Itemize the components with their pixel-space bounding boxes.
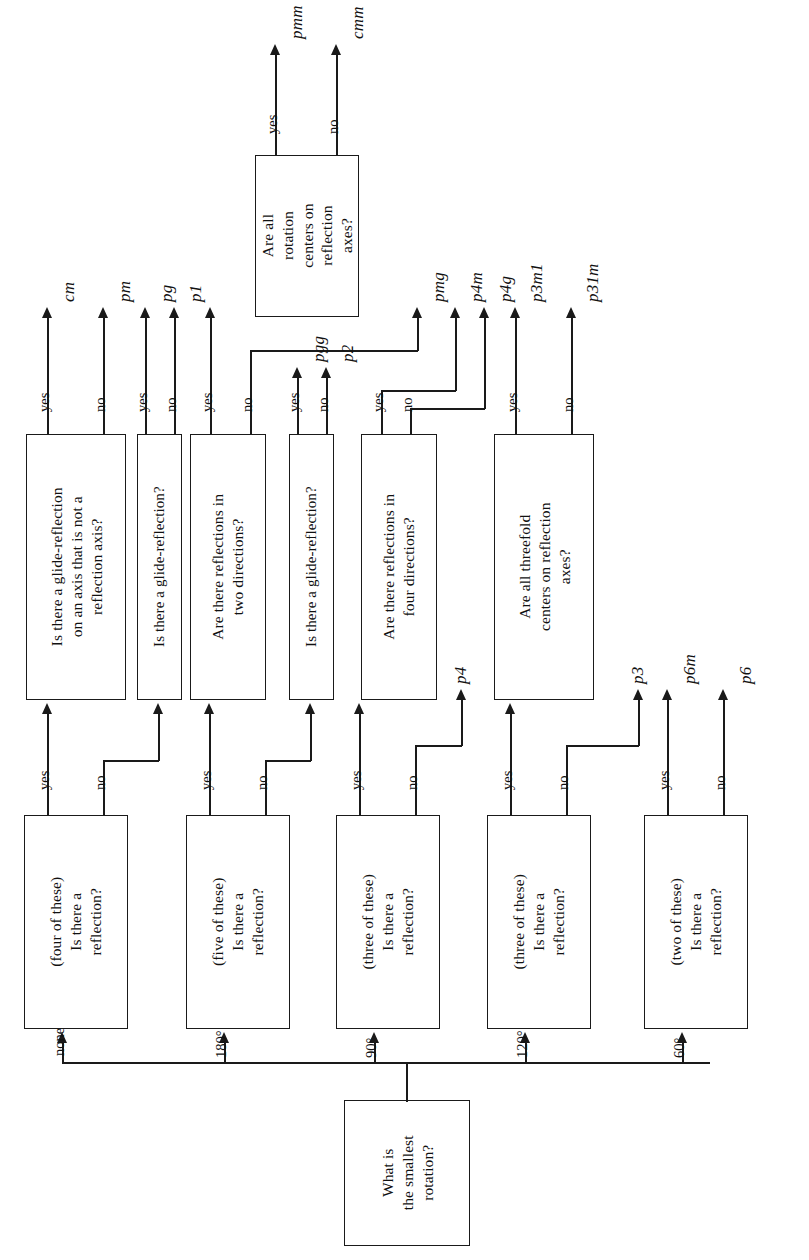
- edge-label-180: 180°: [214, 1030, 229, 1058]
- refltwo-no-line-c: [417, 318, 419, 351]
- glideaxis-yes-label: yes: [37, 393, 52, 412]
- glide1-no-line: [174, 318, 176, 434]
- none-no-arrow: [153, 703, 163, 714]
- d120-no-line-b: [566, 745, 639, 747]
- terminal-p4m: p4m: [468, 272, 485, 302]
- d180-no-arrow: [305, 703, 315, 714]
- flowchart-canvas: What is the smallest rotation? none 180°…: [0, 0, 809, 1260]
- glide1-no-label: no: [164, 398, 179, 413]
- reflfour-no-line-c: [484, 318, 486, 409]
- node-reflection-180-label: (five of these) Is there a reflection?: [208, 878, 267, 966]
- glide1-no-arrow: [169, 307, 179, 318]
- node-reflection-90-label: (three of these) Is there a reflection?: [358, 874, 417, 969]
- start-node: What is the smallest rotation?: [344, 1100, 470, 1246]
- glideaxis-yes-arrow: [42, 307, 52, 318]
- d180-no-label: no: [255, 776, 270, 791]
- terminal-pg: pg: [158, 285, 175, 302]
- node-reflection-120: (three of these) Is there a reflection?: [487, 815, 591, 1029]
- glide2-yes-arrow: [292, 367, 302, 378]
- d60-yes-label: yes: [657, 771, 672, 790]
- d60-yes-arrow: [662, 689, 672, 700]
- threefold-yes-arrow: [510, 307, 520, 318]
- start-node-label: What is the smallest rotation?: [377, 1136, 436, 1211]
- node-threefold-centers-label: Are all threefold centers on reflection …: [514, 503, 573, 632]
- terminal-cm: cm: [60, 282, 77, 302]
- terminal-p4: p4: [452, 667, 469, 684]
- node-reflection-none: (four of these) Is there a reflection?: [24, 815, 128, 1029]
- rotcenters-yes-arrow: [270, 44, 280, 55]
- d90-yes-line: [359, 714, 361, 815]
- node-reflection-90: (three of these) Is there a reflection?: [336, 815, 440, 1029]
- glideaxis-no-line: [103, 318, 105, 434]
- refltwo-no-line-a: [250, 350, 252, 434]
- d90-no-line-b: [415, 745, 462, 747]
- reflfour-no-line-b: [410, 408, 485, 410]
- d120-yes-arrow: [505, 703, 515, 714]
- rotation-bus: [62, 1062, 710, 1064]
- threefold-no-label: no: [561, 398, 576, 413]
- terminal-p4g: p4g: [497, 276, 514, 302]
- node-rotation-centers-on-reflection-axes: Are all rotation centers on reflection a…: [255, 155, 359, 317]
- glideaxis-yes-line: [47, 318, 49, 434]
- d60-no-label: no: [713, 776, 728, 791]
- d60-no-arrow: [718, 689, 728, 700]
- edge-label-120: 120°: [515, 1030, 530, 1058]
- node-rotation-centers-on-reflection-axes-label: Are all rotation centers on reflection a…: [257, 204, 356, 268]
- d90-no-label: no: [405, 776, 420, 791]
- none-no-label: no: [93, 776, 108, 791]
- refltwo-no-label: no: [240, 398, 255, 413]
- start-stem: [406, 1062, 408, 1102]
- terminal-pmg: pmg: [430, 272, 447, 302]
- refltwo-yes-label: yes: [200, 393, 215, 412]
- d180-no-line-c: [310, 714, 312, 761]
- node-glide-on-non-reflection-axis: Is there a glide-reflection on an axis t…: [26, 434, 126, 700]
- terminal-p31m: p31m: [584, 263, 601, 302]
- rotcenters-no-line: [336, 55, 338, 155]
- glide2-no-label: no: [316, 398, 331, 413]
- edge-label-none: none: [52, 1028, 67, 1056]
- rotcenters-yes-line: [275, 55, 277, 155]
- d90-yes-arrow: [354, 703, 364, 714]
- node-glide-reflection-1-label: Is there a glide-reflection?: [150, 487, 169, 648]
- refltwo-no-arrow: [412, 307, 422, 318]
- glide1-yes-line: [145, 318, 147, 434]
- reflfour-no-label: no: [400, 398, 415, 413]
- rotcenters-no-label: no: [326, 120, 341, 135]
- edge-label-90: 90°: [364, 1038, 379, 1058]
- none-yes-arrow: [42, 703, 52, 714]
- d90-yes-label: yes: [349, 771, 364, 790]
- node-reflection-180: (five of these) Is there a reflection?: [186, 815, 290, 1029]
- node-reflections-four-directions: Are there reflections in four directions…: [361, 434, 437, 700]
- d120-yes-label: yes: [500, 771, 515, 790]
- glideaxis-no-arrow: [98, 307, 108, 318]
- d90-no-line-c: [461, 700, 463, 746]
- glide1-yes-arrow: [140, 307, 150, 318]
- refltwo-yes-arrow: [205, 307, 215, 318]
- d90-no-arrow: [456, 689, 466, 700]
- refltwo-yes-line: [210, 318, 212, 434]
- glideaxis-no-label: no: [93, 398, 108, 413]
- reflfour-yes-line-b: [381, 390, 456, 392]
- none-yes-line: [47, 714, 49, 815]
- node-reflection-none-label: (four of these) Is there a reflection?: [46, 877, 105, 967]
- node-reflection-120-label: (three of these) Is there a reflection?: [509, 874, 568, 969]
- reflfour-yes-label: yes: [371, 393, 386, 412]
- refltwo-no-line-b: [250, 350, 418, 352]
- d120-no-line-c: [638, 700, 640, 746]
- terminal-pgg: pgg: [310, 336, 327, 362]
- d120-yes-line: [510, 714, 512, 815]
- terminal-p2: p2: [339, 345, 356, 362]
- reflfour-no-arrow: [479, 307, 489, 318]
- d120-no-arrow: [633, 689, 643, 700]
- none-no-line-b: [103, 760, 159, 762]
- terminal-pmm: pmm: [288, 5, 305, 39]
- node-glide-reflection-2: Is there a glide-reflection?: [289, 434, 334, 700]
- reflfour-yes-arrow: [450, 307, 460, 318]
- edge-label-60: 60°: [672, 1038, 687, 1058]
- threefold-yes-line: [515, 318, 517, 434]
- threefold-yes-label: yes: [505, 393, 520, 412]
- glide2-no-arrow: [321, 367, 331, 378]
- d60-no-line: [723, 700, 725, 815]
- glide1-yes-label: yes: [135, 393, 150, 412]
- rotcenters-yes-label: yes: [265, 115, 280, 134]
